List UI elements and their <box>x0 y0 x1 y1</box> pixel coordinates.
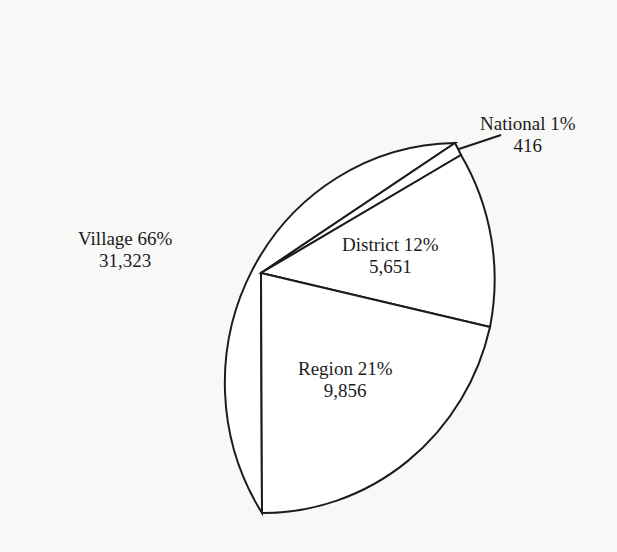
label-region-value: 9,856 <box>298 380 392 402</box>
label-district: District 12% 5,651 <box>342 234 439 278</box>
label-national: National 1% 416 <box>480 113 576 157</box>
label-district-value: 5,651 <box>342 256 439 278</box>
label-village-percent: Village 66% <box>78 228 172 250</box>
label-region: Region 21% 9,856 <box>298 358 392 402</box>
label-national-value: 416 <box>480 135 576 157</box>
pie-chart <box>0 0 617 552</box>
label-national-percent: National 1% <box>480 113 576 135</box>
label-village-value: 31,323 <box>78 250 172 272</box>
label-region-percent: Region 21% <box>298 358 392 380</box>
label-village: Village 66% 31,323 <box>78 228 172 272</box>
label-district-percent: District 12% <box>342 234 439 256</box>
